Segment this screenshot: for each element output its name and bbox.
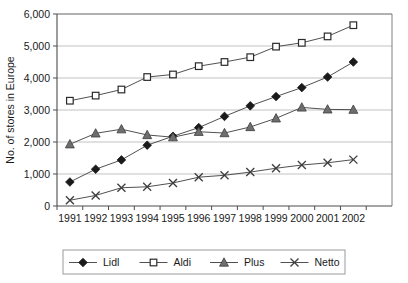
x-tick-label: 1998 [239, 212, 263, 224]
series-aldi [67, 22, 357, 104]
x-tick-label: 1991 [58, 212, 82, 224]
legend-item-aldi[interactable]: Aldi [140, 256, 192, 268]
y-tick-label: 3,000 [24, 104, 50, 116]
x-tick-label: 2001 [316, 212, 340, 224]
y-tick-label: 6,000 [24, 8, 50, 20]
y-tick-label: 4,000 [24, 72, 50, 84]
square-marker-icon [170, 71, 177, 78]
triangle-marker-icon [349, 105, 358, 113]
line-chart: 01,0002,0003,0004,0005,0006,000199119921… [0, 0, 408, 283]
triangle-marker-icon [246, 122, 255, 130]
diamond-marker-icon [272, 92, 281, 101]
square-marker-icon [221, 59, 228, 66]
y-tick-label: 5,000 [24, 40, 50, 52]
y-tick-label: 2,000 [24, 136, 50, 148]
triangle-marker-icon [297, 103, 306, 111]
x-tick-label: 1992 [84, 212, 108, 224]
legend: LidlAldiPlusNetto [63, 250, 345, 274]
diamond-marker-icon [91, 165, 100, 174]
legend-item-plus[interactable]: Plus [210, 256, 264, 268]
square-marker-icon [350, 22, 357, 29]
legend-item-label: Plus [244, 256, 264, 268]
x-tick-label: 1999 [264, 212, 288, 224]
chart-container: 01,0002,0003,0004,0005,0006,000199119921… [0, 0, 408, 283]
diamond-marker-icon [323, 73, 332, 82]
series-line [70, 25, 353, 101]
series-plus [65, 103, 357, 148]
square-marker-icon [144, 74, 151, 81]
diamond-marker-icon [79, 258, 88, 267]
y-tick-label: 0 [44, 200, 50, 212]
x-tick-label: 2000 [290, 212, 314, 224]
cross-marker-icon [92, 191, 100, 199]
diamond-marker-icon [349, 58, 358, 67]
legend-item-label: Netto [315, 256, 340, 268]
legend-item-netto[interactable]: Netto [281, 256, 340, 268]
y-tick-label: 1,000 [24, 168, 50, 180]
square-marker-icon [92, 92, 99, 99]
x-tick-label: 1996 [187, 212, 211, 224]
x-axis: 1991199219931994199519961997199819992000… [57, 206, 366, 224]
square-marker-icon [67, 97, 74, 104]
series-line [70, 160, 353, 201]
x-tick-label: 2002 [342, 212, 366, 224]
legend-item-label: Lidl [103, 256, 119, 268]
x-tick-label: 1997 [213, 212, 237, 224]
gridlines [57, 14, 392, 174]
square-marker-icon [195, 63, 202, 70]
triangle-marker-icon [220, 258, 229, 266]
y-axis-title: No. of stores in Europe [4, 56, 16, 164]
diamond-marker-icon [298, 83, 307, 92]
legend-item-lidl[interactable]: Lidl [69, 256, 119, 268]
y-axis: 01,0002,0003,0004,0005,0006,000 [24, 8, 57, 212]
x-tick-label: 1995 [161, 212, 185, 224]
cross-marker-icon [66, 196, 74, 204]
diamond-marker-icon [220, 112, 229, 121]
series-line [70, 107, 353, 144]
triangle-marker-icon [65, 140, 74, 148]
triangle-marker-icon [272, 114, 281, 122]
series-netto [66, 156, 357, 205]
square-marker-icon [299, 40, 306, 47]
diamond-marker-icon [246, 102, 255, 111]
legend-item-label: Aldi [174, 256, 192, 268]
square-marker-icon [324, 33, 331, 40]
square-marker-icon [118, 86, 125, 93]
series-lidl [66, 58, 358, 187]
square-marker-icon [150, 259, 157, 266]
square-marker-icon [273, 43, 280, 50]
square-marker-icon [247, 54, 254, 61]
x-tick-label: 1994 [136, 212, 160, 224]
triangle-marker-icon [117, 125, 126, 133]
x-tick-label: 1993 [110, 212, 134, 224]
diamond-marker-icon [66, 178, 75, 187]
diamond-marker-icon [117, 156, 126, 165]
